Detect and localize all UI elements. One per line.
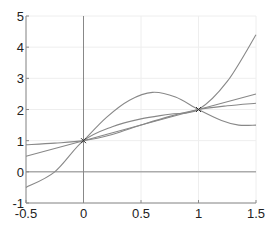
x-tick-label: 0.5 [132,206,150,221]
x-tick-label: 1 [195,206,202,221]
y-tick-label: 5 [17,9,24,24]
y-tick-label: -1 [12,196,24,211]
x-tick-label: 0 [80,206,87,221]
y-tick-label: 4 [17,40,24,55]
x-axis-tick-labels: -0.500.511.5 [15,206,265,221]
y-tick-label: 2 [17,103,24,118]
x-tick-label: 1.5 [247,206,265,221]
y-tick-label: 1 [17,134,24,149]
y-tick-label: 0 [17,165,24,180]
y-axis-tick-labels: -1012345 [12,9,24,211]
grid-lines [26,16,256,203]
line-chart: -0.500.511.5 -1012345 [0,0,268,228]
y-tick-label: 3 [17,71,24,86]
